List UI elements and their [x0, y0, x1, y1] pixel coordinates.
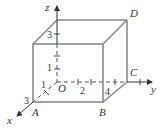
z-tick-3: 3	[47, 29, 52, 40]
z-tick-1: 1	[47, 62, 52, 73]
x-tick-3: 3	[24, 95, 29, 106]
y-axis-label: y	[150, 83, 156, 95]
y-tick-2: 2	[80, 85, 85, 96]
z-axis-label: z	[44, 1, 50, 13]
origin-label: O	[58, 82, 66, 94]
y-tick-4: 4	[105, 86, 110, 97]
top-left-connector	[33, 20, 57, 44]
vertex-A-label: A	[31, 106, 39, 118]
x-tick-1: 1	[41, 79, 46, 90]
vertex-C-label: C	[130, 66, 138, 78]
x-axis-label: x	[6, 114, 12, 126]
vertex-B-label: B	[99, 106, 106, 118]
visible-axes	[17, 6, 152, 116]
top-right-connector	[103, 20, 127, 44]
coordinate-box-diagram: z y x O D C B A 3 1 1 3 2 4	[0, 0, 166, 128]
vertex-D-label: D	[129, 7, 138, 19]
